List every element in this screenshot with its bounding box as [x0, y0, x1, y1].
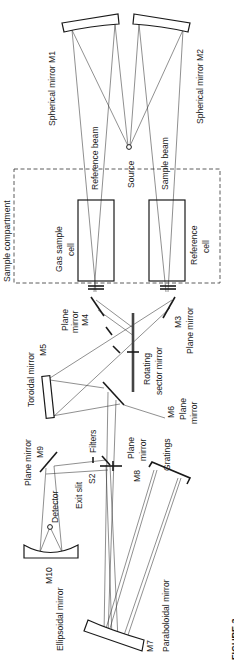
label-m7-2: Paraboloidal mirror: [161, 579, 171, 652]
reference-cell: [149, 200, 185, 281]
label-gratings: Gratings: [162, 439, 172, 471]
label-rotating-1: Rotating: [142, 353, 152, 385]
label-m8-1: Plane: [126, 437, 136, 459]
label-m2: Spherical mirror M2: [195, 49, 205, 124]
detector-icon: [48, 525, 53, 530]
optical-diagram: Spherical mirror M1 Spherical mirror M2 …: [0, 0, 234, 660]
spherical-mirror-m1: [62, 14, 119, 32]
label-sample-compartment: Sample compartment: [2, 200, 12, 282]
figure-caption: FIGURE 3: [230, 618, 234, 660]
label-m8-3: M8: [132, 470, 142, 482]
spherical-mirror-m2: [133, 14, 190, 32]
label-m6-1: M6: [166, 406, 176, 418]
label-m5-1: Toroidal mirror: [26, 352, 36, 407]
paraboloidal-mirror-m7: [84, 620, 144, 651]
label-gas-cell-1: Gas sample: [54, 226, 64, 272]
label-filters: Filters: [88, 430, 98, 453]
label-m10-2: Ellipsoidal mirror: [55, 587, 65, 651]
toroidal-mirror-m5: [42, 376, 54, 419]
label-m7-1: M7: [145, 640, 155, 652]
label-exit-slit-1: Exit slit: [74, 481, 84, 509]
label-m4-1: Plane: [60, 309, 70, 331]
label-exit-slit-2: S2: [87, 473, 97, 484]
plane-mirror-m3: [163, 297, 175, 318]
label-m3-2: Plane mirror: [185, 307, 195, 354]
label-m4-2: mirror: [70, 310, 80, 333]
label-m1: Spherical mirror M1: [47, 51, 57, 126]
label-reference-beam: Reference beam: [90, 126, 100, 190]
label-rotating-2: sector mirror: [154, 347, 164, 395]
label-m9-2: M9: [35, 446, 45, 458]
label-m5-2: M5: [38, 344, 48, 356]
label-sample-beam: Sample beam: [160, 137, 170, 190]
source-icon: [127, 145, 132, 150]
label-m8-2: mirror: [138, 438, 148, 461]
label-ref-cell-2: cell: [201, 240, 211, 253]
label-m9-1: Plane mirror: [23, 439, 33, 486]
label-source: Source: [126, 161, 136, 188]
label-gas-cell-2: cell: [66, 243, 76, 256]
light-rays: [40, 24, 183, 641]
plane-mirror-m4: [91, 297, 104, 316]
plane-mirror-m6: [103, 382, 124, 405]
label-m4-3: M4: [80, 314, 90, 326]
label-m6-3: mirror: [189, 401, 199, 424]
label-m6-2: Plane: [178, 398, 188, 420]
label-ref-cell-1: Reference: [189, 225, 199, 265]
ellipsoidal-mirror-m10: [24, 545, 78, 558]
label-detector: Detector: [50, 490, 60, 523]
label-m3-1: M3: [173, 316, 183, 328]
label-m10-1: M10: [44, 567, 54, 584]
